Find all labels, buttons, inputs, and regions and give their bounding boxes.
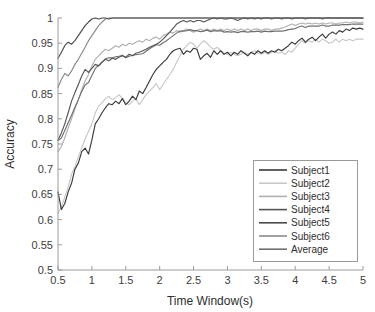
x-tick-label: 3.5 (254, 274, 269, 286)
legend-label-subject1: Subject1 (291, 165, 330, 176)
legend-label-subject5: Subject5 (291, 217, 330, 228)
x-tick-label: 0.5 (50, 274, 65, 286)
x-tick-label: 2 (157, 274, 163, 286)
x-tick-label: 4.5 (321, 274, 336, 286)
legend-label-subject4: Subject4 (291, 204, 330, 215)
x-tick-label: 4 (292, 274, 298, 286)
y-tick-label: 0.95 (32, 37, 53, 49)
x-tick-label: 1 (89, 274, 95, 286)
y-tick-label: 0.85 (32, 88, 53, 100)
legend-label-subject3: Subject3 (291, 191, 330, 202)
legend-label-subject6: Subject6 (291, 231, 330, 242)
y-tick-label: 0.55 (32, 239, 53, 251)
y-tick-label: 0.75 (32, 138, 53, 150)
legend-label-subject2: Subject2 (291, 178, 330, 189)
x-axis-label: Time Window(s) (167, 294, 253, 308)
y-axis-label: Accuracy (3, 119, 17, 168)
chart-background (0, 0, 375, 312)
y-tick-label: 0.6 (38, 214, 53, 226)
y-tick-label: 0.7 (38, 163, 53, 175)
x-tick-label: 3 (224, 274, 230, 286)
y-tick-label: 0.8 (38, 113, 53, 125)
y-tick-label: 0.65 (32, 188, 53, 200)
chart-figure: 0.50.550.60.650.70.750.80.850.90.951 0.5… (0, 0, 375, 312)
line-chart: 0.50.550.60.650.70.750.80.850.90.951 0.5… (0, 0, 375, 312)
chart-legend: Subject1Subject2Subject3Subject4Subject5… (254, 161, 358, 262)
y-tick-label: 1 (47, 12, 53, 24)
x-tick-label: 1.5 (118, 274, 133, 286)
legend-label-average: Average (291, 244, 329, 255)
x-tick-label: 2.5 (186, 274, 201, 286)
x-tick-label: 5 (360, 274, 366, 286)
y-tick-label: 0.9 (38, 62, 53, 74)
